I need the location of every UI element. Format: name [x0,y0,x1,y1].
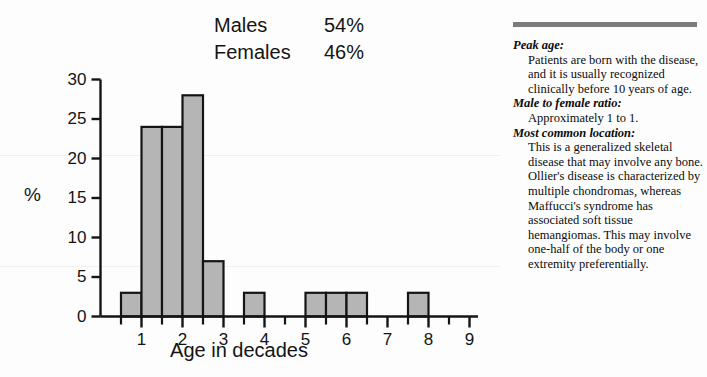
histogram-bar [326,293,347,317]
bars-group [121,95,429,316]
panel-section-body: Approximately 1 to 1. [528,111,703,126]
panel-section: Most common location: This is a generali… [513,126,703,272]
panel-divider-rule [513,22,697,27]
panel-text-body: Peak age: Patients are born with the dis… [513,38,703,272]
info-panel: Peak age: Patients are born with the dis… [500,0,707,377]
y-tick-label: 30 [53,70,87,90]
panel-section: Male to female ratio: Approximately 1 to… [513,96,703,125]
panel-section: Peak age: Patients are born with the dis… [513,38,703,96]
histogram-figure: Males 54% Females 46% 051015202530 12345… [0,0,500,377]
histogram-bar [408,293,429,317]
panel-section-body: This is a generalized skeletal disease t… [528,140,703,271]
histogram-bar [244,293,265,317]
histogram-bar [121,293,142,317]
histogram-bar [183,95,204,316]
histogram-bar [142,127,163,317]
panel-section-heading: Most common location: [513,126,635,140]
figure-page: Males 54% Females 46% 051015202530 12345… [0,0,707,377]
x-axis-title: Age in decades [0,339,478,362]
panel-section-body: Patients are born with the disease, and … [528,53,703,97]
y-tick-label: 5 [53,267,87,287]
y-axis-label: % [24,184,41,206]
panel-section-heading: Peak age: [513,38,564,52]
histogram-bar [162,127,183,317]
y-tick-label: 0 [53,307,87,327]
histogram-bar [347,293,368,317]
y-tick-label: 10 [53,228,87,248]
histogram-bar [203,261,224,316]
y-tick-label: 20 [53,149,87,169]
y-tick-label: 15 [53,188,87,208]
panel-section-heading: Male to female ratio: [513,96,622,110]
y-tick-label: 25 [53,109,87,129]
histogram-bar [306,293,327,317]
